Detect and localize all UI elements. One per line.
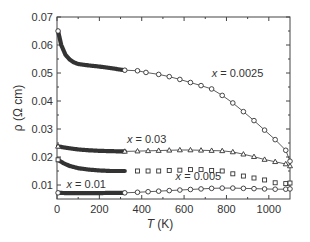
low-temperature-band bbox=[58, 146, 125, 151]
series-annotation: x = 0.01 bbox=[66, 178, 106, 190]
circle-marker bbox=[283, 148, 288, 153]
y-tick-label: 0.03 bbox=[32, 123, 53, 135]
x-tick-label: 0 bbox=[54, 203, 60, 215]
circle-marker bbox=[188, 80, 193, 85]
x-axis-title: T (K) bbox=[147, 217, 174, 231]
circle-marker bbox=[178, 77, 183, 82]
circle-marker bbox=[273, 187, 278, 192]
series-annotation: x = 0.0025 bbox=[211, 67, 264, 79]
triangle-marker bbox=[146, 148, 151, 152]
circle-marker bbox=[135, 68, 140, 73]
triangle-marker bbox=[188, 147, 193, 151]
square-marker bbox=[252, 176, 256, 180]
triangle-marker bbox=[199, 148, 204, 152]
square-marker bbox=[167, 168, 171, 172]
y-axis-title: ρ (Ω cm) bbox=[11, 85, 25, 131]
y-tick-label: 0.02 bbox=[32, 151, 53, 163]
triangle-marker bbox=[288, 163, 293, 167]
circle-marker bbox=[156, 189, 161, 194]
circle-marker bbox=[288, 187, 293, 192]
square-marker bbox=[273, 181, 277, 185]
circle-marker bbox=[56, 191, 61, 196]
circle-marker bbox=[231, 186, 236, 191]
circle-marker bbox=[273, 137, 278, 142]
x-tick-label: 600 bbox=[175, 203, 193, 215]
data-series bbox=[56, 29, 293, 195]
circle-marker bbox=[188, 187, 193, 192]
high-temperature-line bbox=[125, 70, 290, 161]
series-x-0-0025 bbox=[56, 29, 293, 164]
square-marker bbox=[231, 172, 235, 176]
series-x-0-03 bbox=[56, 144, 293, 168]
circle-marker bbox=[56, 29, 61, 34]
circle-marker bbox=[241, 109, 246, 114]
circle-marker bbox=[241, 186, 246, 191]
square-marker bbox=[284, 182, 288, 186]
x-tick-label: 400 bbox=[133, 203, 151, 215]
circle-marker bbox=[156, 72, 161, 77]
square-marker bbox=[288, 181, 292, 185]
circle-marker bbox=[178, 188, 183, 193]
circle-marker bbox=[199, 187, 204, 192]
y-tick-label: 0.01 bbox=[32, 179, 53, 191]
circle-marker bbox=[262, 187, 267, 192]
circle-marker bbox=[167, 74, 172, 79]
circle-marker bbox=[220, 93, 225, 98]
circle-marker bbox=[144, 70, 149, 75]
circle-marker bbox=[209, 186, 214, 191]
x-tick-label: 200 bbox=[90, 203, 108, 215]
square-marker bbox=[263, 178, 267, 182]
square-marker bbox=[157, 169, 161, 173]
square-marker bbox=[56, 158, 60, 162]
triangle-marker bbox=[156, 148, 161, 152]
circle-marker bbox=[262, 128, 267, 133]
circle-marker bbox=[231, 101, 236, 106]
y-tick-label: 0.07 bbox=[32, 11, 53, 23]
low-temperature-band bbox=[58, 31, 125, 70]
circle-marker bbox=[209, 87, 214, 92]
resistivity-chart: 020040060080010000.010.020.030.040.050.0… bbox=[0, 0, 310, 242]
triangle-marker bbox=[262, 157, 267, 161]
circle-marker bbox=[252, 186, 257, 191]
x-axis-unit: (K) bbox=[154, 217, 173, 231]
triangle-marker bbox=[135, 149, 140, 153]
circle-marker bbox=[135, 190, 140, 195]
circle-marker bbox=[122, 68, 127, 73]
series-annotation: x = 0.005 bbox=[175, 170, 222, 182]
low-temperature-band bbox=[58, 160, 125, 171]
triangle-marker bbox=[220, 148, 225, 152]
triangle-marker bbox=[273, 159, 278, 163]
circle-marker bbox=[122, 191, 127, 196]
triangle-marker bbox=[167, 148, 172, 152]
triangle-marker bbox=[241, 152, 246, 156]
triangle-marker bbox=[209, 148, 214, 152]
x-tick-label: 1000 bbox=[257, 203, 281, 215]
circle-marker bbox=[146, 189, 151, 194]
square-marker bbox=[135, 169, 139, 173]
circle-marker bbox=[199, 83, 204, 88]
triangle-marker bbox=[230, 149, 235, 153]
circle-marker bbox=[220, 186, 225, 191]
square-marker bbox=[241, 174, 245, 178]
square-marker bbox=[146, 169, 150, 173]
y-tick-label: 0.06 bbox=[32, 39, 53, 51]
circle-marker bbox=[252, 118, 257, 123]
circle-marker bbox=[167, 188, 172, 193]
y-tick-label: 0.05 bbox=[32, 67, 53, 79]
y-tick-label: 0.04 bbox=[32, 95, 53, 107]
triangle-marker bbox=[251, 154, 256, 158]
triangle-marker bbox=[177, 147, 182, 151]
triangle-marker bbox=[56, 144, 61, 148]
x-tick-label: 800 bbox=[217, 203, 235, 215]
series-annotation: x = 0.03 bbox=[126, 133, 166, 145]
